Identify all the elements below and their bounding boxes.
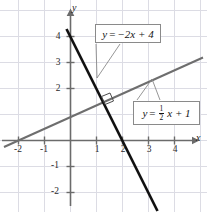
callout-steep-rhs: −2x + 4 bbox=[117, 28, 153, 40]
fraction-denominator: 2 bbox=[159, 113, 165, 122]
x-tick-label--2: -2 bbox=[10, 144, 26, 154]
callout-steep-lhs: y bbox=[102, 28, 107, 40]
y-tick-label-2: 2 bbox=[50, 83, 66, 93]
x-tick-label--1: -1 bbox=[36, 144, 52, 154]
callout-shallow-equals: = bbox=[149, 107, 155, 119]
y-tick-label-3: 3 bbox=[50, 57, 66, 67]
y-tick-label--1: -1 bbox=[47, 160, 63, 170]
callout-shallow-lhs: y bbox=[142, 107, 147, 119]
x-tick-label-2: 2 bbox=[115, 144, 131, 154]
x-tick-label-3: 3 bbox=[141, 144, 157, 154]
y-axis-name: y bbox=[72, 2, 76, 13]
x-tick-label-1: 1 bbox=[89, 144, 105, 154]
x-axis-name: x bbox=[196, 132, 200, 143]
leader-lines-steep bbox=[96, 44, 120, 78]
x-tick-label-4: 4 bbox=[167, 144, 183, 154]
graph-figure: -2 -1 1 2 3 4 4 3 2 -1 -2 x y y = −2x + … bbox=[0, 0, 207, 212]
y-tick-label-4: 4 bbox=[50, 31, 66, 41]
callout-shallow-fraction: 1 2 bbox=[159, 105, 165, 122]
callout-shallow-line-equation: y = 1 2 x + 1 bbox=[133, 101, 200, 125]
fraction-numerator: 1 bbox=[159, 105, 165, 113]
callout-shallow-rhs: x + 1 bbox=[167, 107, 190, 119]
y-tick-label--2: -2 bbox=[47, 186, 63, 196]
callout-steep-equals: = bbox=[109, 28, 115, 40]
callout-steep-line-equation: y = −2x + 4 bbox=[95, 24, 161, 43]
